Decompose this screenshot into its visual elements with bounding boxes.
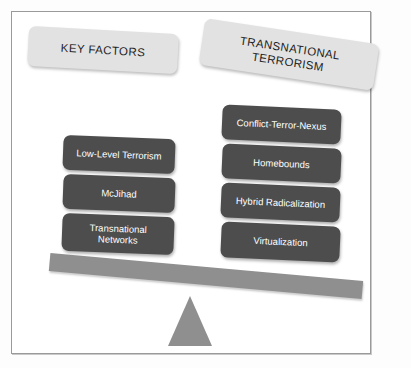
factor-box-homebounds: Homebounds [221, 143, 341, 183]
factor-box-mcjihad-label: McJihad [101, 187, 137, 200]
factor-box-transnational-networks-line2: Networks [89, 233, 147, 247]
factor-box-transnational-networks: Transnational Networks [61, 213, 174, 255]
header-transnational-terrorism-label: TRANSNATIONAL TERRORISM [237, 33, 341, 76]
factor-box-virtualization: Virtualization [220, 221, 341, 262]
factor-box-low-level-terrorism-label: Low-Level Terrorism [76, 147, 162, 162]
factor-box-hybrid-radicalization-label: Hybrid Radicalization [236, 195, 326, 211]
factor-box-transnational-networks-label: Transnational Networks [89, 221, 147, 246]
factor-box-mcjihad: McJihad [62, 174, 175, 213]
factor-box-homebounds-label: Homebounds [253, 156, 310, 170]
fulcrum-triangle-icon [168, 296, 212, 346]
factor-box-low-level-terrorism: Low-Level Terrorism [62, 135, 175, 174]
header-key-factors: KEY FACTORS [27, 26, 179, 74]
factor-box-hybrid-radicalization: Hybrid Radicalization [220, 182, 340, 222]
factor-box-conflict-terror-nexus-label: Conflict-Terror-Nexus [236, 117, 326, 133]
header-key-factors-label: KEY FACTORS [60, 42, 145, 59]
factor-box-conflict-terror-nexus: Conflict-Terror-Nexus [221, 104, 341, 144]
factor-box-virtualization-label: Virtualization [253, 235, 308, 249]
diagram-canvas: KEY FACTORS TRANSNATIONAL TERRORISM Low-… [0, 0, 411, 368]
